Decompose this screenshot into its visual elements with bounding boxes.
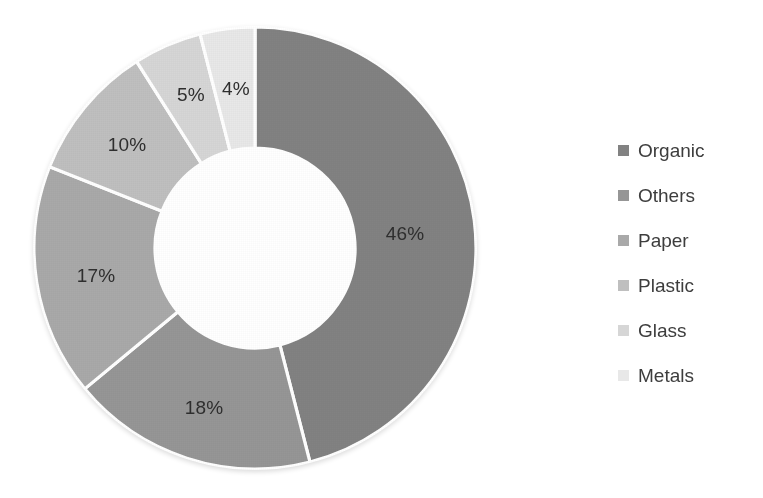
slice-label-organic: 46% xyxy=(386,223,425,245)
legend-item-organic[interactable]: Organic xyxy=(618,128,758,173)
legend-item-paper[interactable]: Paper xyxy=(618,218,758,263)
legend-label-organic: Organic xyxy=(638,141,705,160)
legend-label-glass: Glass xyxy=(638,321,687,340)
legend-swatch-icon-paper xyxy=(618,235,629,246)
chart-legend: Organic Others Paper Plastic Glass Metal… xyxy=(618,128,758,398)
legend-item-glass[interactable]: Glass xyxy=(618,308,758,353)
legend-label-paper: Paper xyxy=(638,231,689,250)
slice-label-others: 18% xyxy=(185,397,224,419)
legend-label-others: Others xyxy=(638,186,695,205)
legend-swatch-icon-metals xyxy=(618,370,629,381)
legend-item-others[interactable]: Others xyxy=(618,173,758,218)
slice-label-plastic: 10% xyxy=(108,134,147,156)
slice-label-paper: 17% xyxy=(77,265,116,287)
legend-item-metals[interactable]: Metals xyxy=(618,353,758,398)
donut-svg xyxy=(33,26,477,470)
legend-swatch-icon-plastic xyxy=(618,280,629,291)
legend-label-metals: Metals xyxy=(638,366,694,385)
slice-label-glass: 5% xyxy=(177,84,205,106)
legend-label-plastic: Plastic xyxy=(638,276,694,295)
legend-swatch-icon-others xyxy=(618,190,629,201)
legend-swatch-icon-organic xyxy=(618,145,629,156)
slice-label-metals: 4% xyxy=(222,78,250,100)
legend-item-plastic[interactable]: Plastic xyxy=(618,263,758,308)
donut-plot-area: 46% 18% 17% 10% 5% 4% xyxy=(33,26,477,470)
donut-chart-figure: 46% 18% 17% 10% 5% 4% Organic Others Pap… xyxy=(0,0,763,498)
donut-slices xyxy=(34,27,476,469)
legend-swatch-icon-glass xyxy=(618,325,629,336)
